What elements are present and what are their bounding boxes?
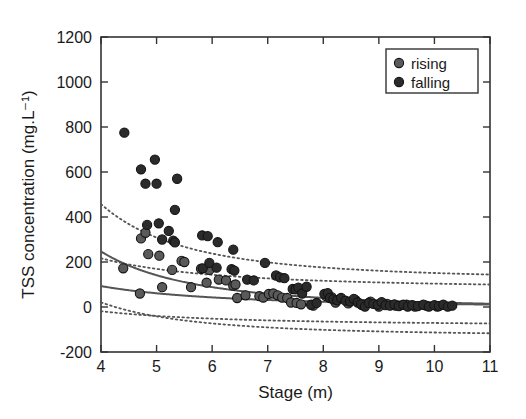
data-point bbox=[168, 265, 177, 274]
data-point bbox=[186, 283, 195, 292]
legend-label-rising: rising bbox=[411, 55, 447, 72]
data-point bbox=[230, 266, 239, 275]
data-point bbox=[154, 219, 163, 228]
data-point bbox=[155, 251, 164, 260]
x-tick-label: 7 bbox=[263, 358, 272, 375]
x-tick-label: 4 bbox=[97, 358, 106, 375]
legend-marker-rising bbox=[394, 58, 403, 67]
x-tick-label: 9 bbox=[374, 358, 383, 375]
x-tick-label: 11 bbox=[482, 358, 499, 375]
y-tick-label: 1000 bbox=[56, 74, 92, 91]
data-point bbox=[136, 165, 145, 174]
data-point bbox=[312, 298, 321, 307]
data-point bbox=[141, 179, 150, 188]
tss-stage-scatter-plot: -200020040060080010001200 4567891011 Sta… bbox=[0, 0, 526, 419]
data-point bbox=[173, 174, 182, 183]
data-point bbox=[241, 291, 250, 300]
data-point bbox=[143, 220, 152, 229]
x-tick-label: 10 bbox=[426, 358, 444, 375]
x-tick-label: 5 bbox=[152, 358, 161, 375]
y-tick-label: 1200 bbox=[56, 29, 92, 46]
data-point bbox=[231, 280, 240, 289]
y-tick-label: 0 bbox=[83, 299, 92, 316]
data-point bbox=[212, 263, 221, 272]
data-point bbox=[296, 300, 305, 309]
data-point bbox=[260, 258, 269, 267]
data-point bbox=[144, 250, 153, 259]
x-tick-label: 6 bbox=[208, 358, 217, 375]
y-tick-label: 600 bbox=[65, 164, 92, 181]
y-tick-label: 800 bbox=[65, 119, 92, 136]
chart-figure: -200020040060080010001200 4567891011 Sta… bbox=[0, 0, 526, 419]
data-point bbox=[180, 257, 189, 266]
legend-label-falling: falling bbox=[411, 74, 450, 91]
data-point bbox=[119, 264, 128, 273]
y-axis-label: TSS concentration (mg.L⁻¹) bbox=[19, 90, 38, 298]
data-point bbox=[158, 283, 167, 292]
data-point bbox=[150, 155, 159, 164]
data-point bbox=[213, 238, 222, 247]
data-point bbox=[280, 274, 289, 283]
data-point bbox=[164, 226, 173, 235]
x-axis-label: Stage (m) bbox=[258, 383, 333, 402]
y-tick-label: 200 bbox=[65, 254, 92, 271]
x-tick-label: 8 bbox=[319, 358, 328, 375]
y-tick-label: -200 bbox=[60, 344, 92, 361]
data-point bbox=[203, 232, 212, 241]
data-point bbox=[202, 278, 211, 287]
data-point bbox=[158, 235, 167, 244]
data-point bbox=[170, 205, 179, 214]
data-point bbox=[135, 289, 144, 298]
data-point bbox=[229, 245, 238, 254]
data-point bbox=[302, 282, 311, 291]
data-point bbox=[120, 128, 129, 137]
legend: risingfalling bbox=[386, 49, 478, 93]
data-point bbox=[152, 179, 161, 188]
legend-marker-falling bbox=[394, 77, 403, 86]
data-point bbox=[170, 238, 179, 247]
data-point bbox=[448, 301, 457, 310]
data-point bbox=[249, 276, 258, 285]
y-tick-label: 400 bbox=[65, 209, 92, 226]
